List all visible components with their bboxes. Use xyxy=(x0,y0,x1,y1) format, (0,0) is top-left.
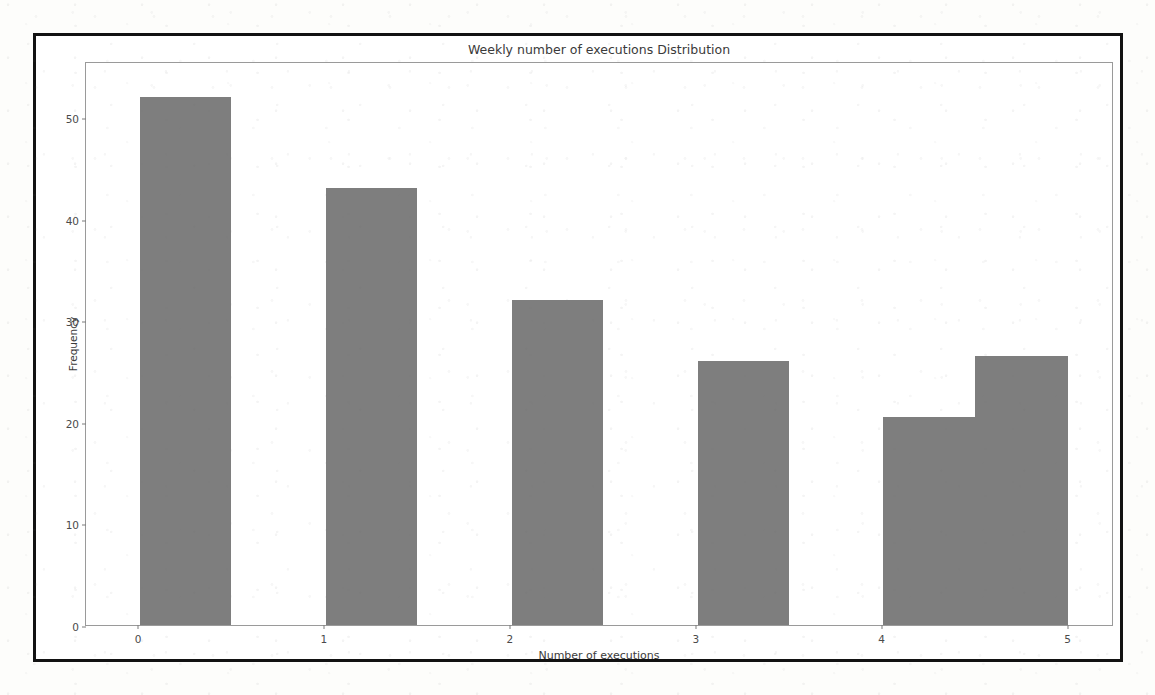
page-ghost-text xyxy=(0,0,1155,30)
y-tick-mark xyxy=(82,220,86,221)
plot-surface: 01020304050012345 xyxy=(86,63,1112,625)
x-tick-label: 3 xyxy=(692,633,699,645)
x-tick-label: 1 xyxy=(321,633,328,645)
x-tick-mark xyxy=(138,625,139,629)
y-tick-mark xyxy=(82,627,86,628)
x-tick-label: 5 xyxy=(1064,633,1071,645)
histogram-bar xyxy=(883,417,974,625)
plot-area: Weekly number of executions Distribution… xyxy=(85,62,1113,626)
y-axis-label: Frequency xyxy=(67,317,79,371)
y-tick-mark xyxy=(82,322,86,323)
y-tick-label: 10 xyxy=(66,519,79,531)
chart-title: Weekly number of executions Distribution xyxy=(86,42,1112,57)
histogram-bar xyxy=(326,188,417,625)
y-tick-label: 40 xyxy=(66,215,79,227)
x-tick-label: 4 xyxy=(878,633,885,645)
histogram-bar xyxy=(698,361,789,625)
y-tick-mark xyxy=(82,525,86,526)
histogram-bar xyxy=(975,356,1068,625)
y-tick-label: 0 xyxy=(72,621,79,633)
x-axis-label: Number of executions xyxy=(86,649,1112,662)
x-tick-mark xyxy=(695,625,696,629)
x-tick-label: 0 xyxy=(135,633,142,645)
y-tick-mark xyxy=(82,118,86,119)
figure-frame: Weekly number of executions Distribution… xyxy=(33,33,1123,662)
x-tick-mark xyxy=(881,625,882,629)
y-tick-label: 50 xyxy=(66,113,79,125)
x-tick-label: 2 xyxy=(506,633,513,645)
x-tick-mark xyxy=(1067,625,1068,629)
histogram-bar xyxy=(512,300,603,625)
x-tick-mark xyxy=(509,625,510,629)
y-tick-mark xyxy=(82,423,86,424)
histogram-bar xyxy=(140,97,231,625)
x-tick-mark xyxy=(323,625,324,629)
y-tick-label: 20 xyxy=(66,418,79,430)
